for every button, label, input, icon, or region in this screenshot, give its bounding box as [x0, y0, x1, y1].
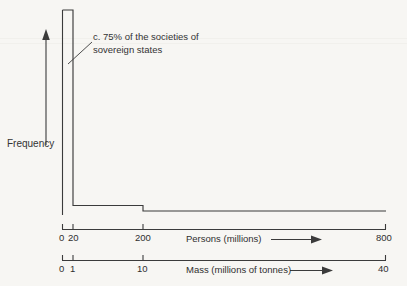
mass-title-arrow-head — [322, 266, 333, 274]
mass-tick-label-40: 40 — [378, 263, 389, 275]
mass-tick-label-1: 1 — [70, 263, 75, 275]
persons-tick-label-800: 800 — [376, 232, 392, 244]
mass-axis-title: Mass (millions of tonnes) — [186, 264, 291, 276]
chart-annotation: c. 75% of the societies of sovereign sta… — [93, 30, 253, 56]
persons-tick-label-0: 0 — [59, 232, 64, 244]
mass-tick-label-0: 0 — [59, 263, 64, 275]
mass-tick-label-10: 10 — [137, 263, 148, 275]
y-axis-label: Frequency — [7, 138, 54, 150]
figure-canvas: Frequency c. 75% of the societies of sov… — [0, 0, 407, 286]
persons-tick-label-200: 200 — [135, 232, 151, 244]
annotation-line-1: c. 75% of the societies of — [93, 31, 199, 42]
persons-axis-title: Persons (millions) — [186, 233, 262, 245]
annotation-line-2: sovereign states — [93, 44, 162, 55]
annotation-leader-line — [68, 42, 92, 64]
persons-tick-label-20: 20 — [68, 232, 79, 244]
y-axis-arrow — [42, 29, 50, 145]
persons-title-arrow-head — [311, 235, 322, 243]
